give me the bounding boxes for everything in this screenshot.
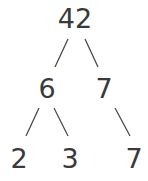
factor-tree-diagram: 42 6 7 2 3 7: [0, 0, 148, 181]
node-right: 7: [95, 73, 112, 104]
node-left: 6: [38, 73, 55, 104]
node-root: 42: [58, 3, 92, 34]
node-right-right: 7: [125, 143, 142, 174]
edge-left-left-left: [26, 108, 39, 136]
edge-right-right-right: [115, 108, 130, 136]
edge-root-right: [85, 39, 98, 67]
edge-root-left: [55, 39, 68, 67]
node-left-left: 2: [10, 143, 27, 174]
edge-left-left-right: [54, 108, 68, 136]
node-left-right: 3: [61, 143, 78, 174]
